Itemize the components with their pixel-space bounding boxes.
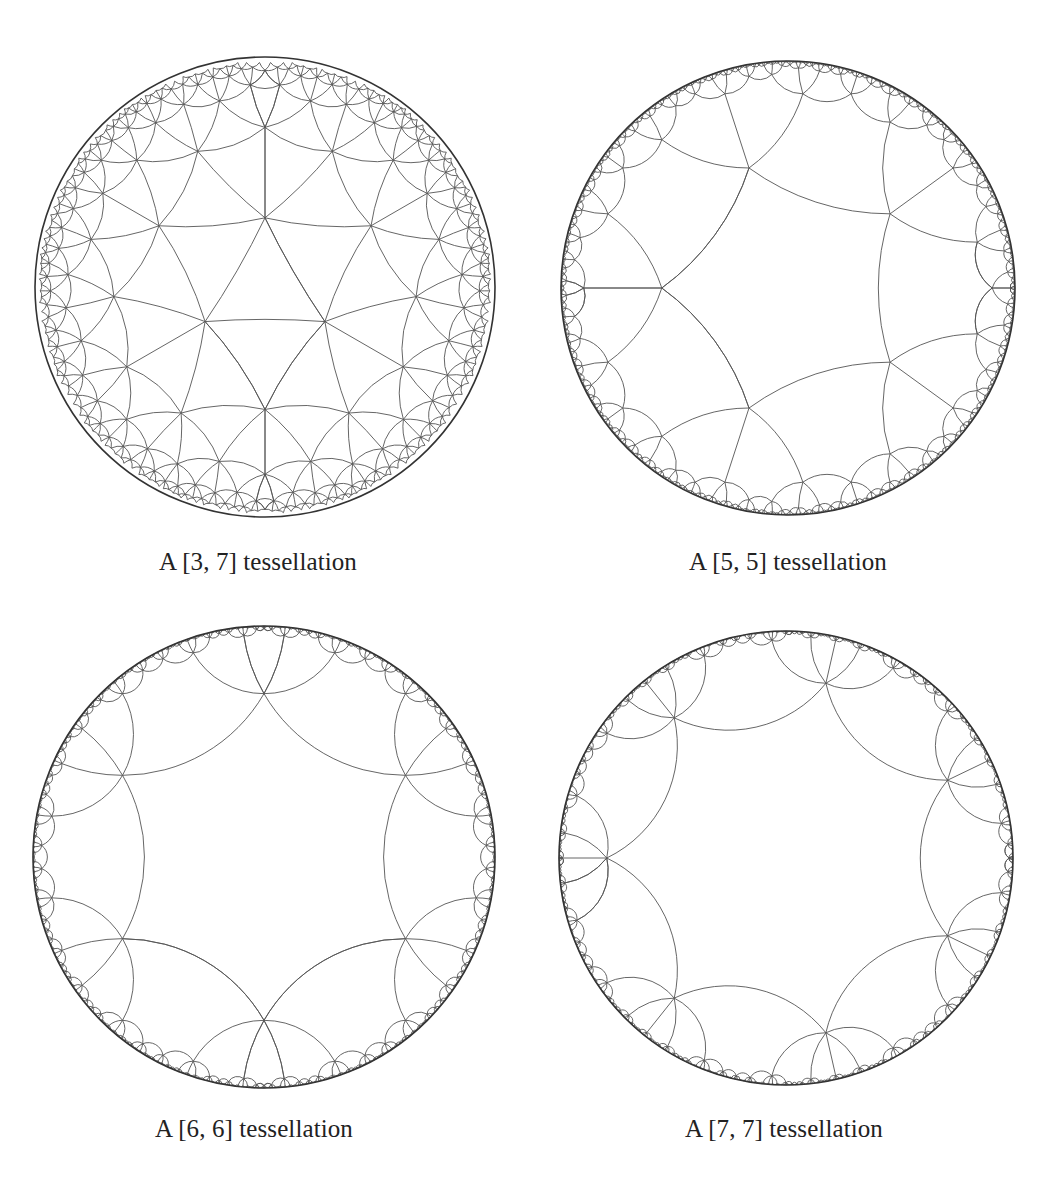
tessellation-edges [561,61,1015,515]
caption-3-7: A [3, 7] tessellation [159,548,357,576]
poincare-disk-6-6 [29,622,499,1092]
caption-7-7: A [7, 7] tessellation [685,1115,883,1143]
poincare-disk-3-7 [31,53,499,521]
disk-boundary-circle [33,626,495,1088]
tessellation-edges [33,626,495,1088]
caption-6-6: A [6, 6] tessellation [155,1115,353,1143]
tessellation-edges [559,631,1013,1085]
tessellation-edges [39,63,490,513]
poincare-disk-7-7 [555,627,1017,1089]
disk-boundary-circle [559,631,1013,1085]
poincare-disk-5-5 [557,57,1019,519]
caption-5-5: A [5, 5] tessellation [689,548,887,576]
